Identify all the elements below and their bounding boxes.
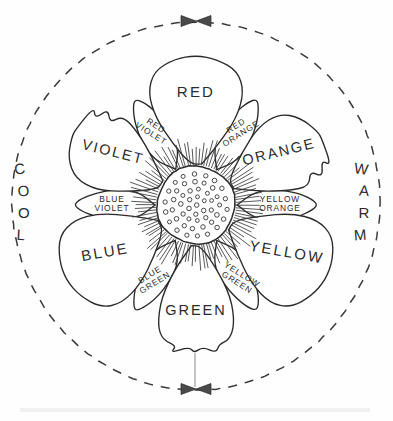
center-disk-outline[interactable]: [157, 166, 235, 245]
petal-label-yellow-orange: YELLOWORANGE: [259, 194, 301, 213]
warm-label-letter: M: [353, 226, 368, 244]
top-bowtie-marker-right-triangle: [196, 16, 211, 27]
cool-label-letter: O: [17, 182, 31, 200]
cool-label-letter: L: [16, 226, 27, 244]
bottom-bowtie-marker-right-triangle: [196, 384, 211, 395]
color-wheel-canvas: REDREDORANGEORANGEYELLOWORANGEYELLOWYELL…: [0, 0, 393, 421]
petal-label-green: GREEN: [165, 302, 227, 318]
center-disk: [157, 166, 235, 245]
warm-label-letter: A: [359, 182, 371, 200]
cool-label-letter: C: [13, 159, 27, 177]
warm-label-letter: W: [353, 159, 370, 178]
scan-smudge: [20, 408, 370, 412]
warm-label-letter: R: [358, 204, 370, 221]
top-bowtie-marker-left-triangle: [181, 16, 196, 27]
petal-label-blue-violet: BLUEVIOLET: [94, 194, 129, 213]
cool-label-letter: O: [18, 204, 31, 221]
bottom-bowtie-marker-left-triangle: [181, 384, 196, 395]
color-wheel-diagram: REDREDORANGEORANGEYELLOWORANGEYELLOWYELL…: [0, 0, 393, 421]
petal-label-red: RED: [177, 83, 215, 100]
